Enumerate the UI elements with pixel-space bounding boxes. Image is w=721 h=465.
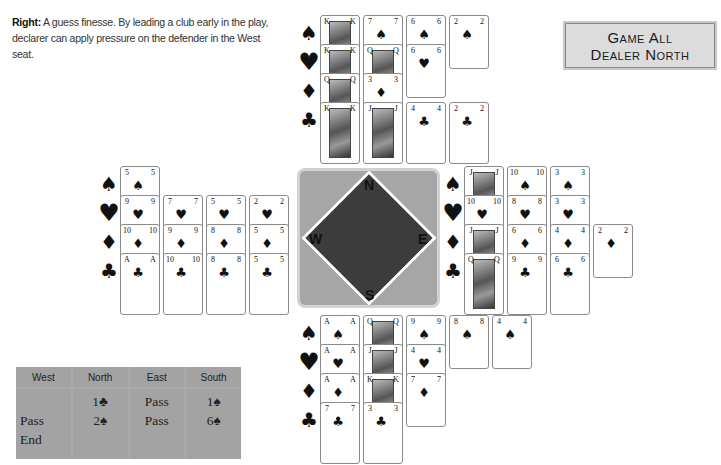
card-rank: Q: [467, 256, 475, 264]
card-rank: 6: [409, 18, 417, 26]
card-pip-icon: ♠: [121, 179, 159, 192]
card-rank: 4: [553, 227, 561, 235]
card-rank: 5: [278, 227, 286, 235]
diamond-suit-icon: ♦: [441, 232, 465, 252]
card-rank: 8: [209, 227, 217, 235]
playing-card: ♣55: [249, 253, 289, 315]
playing-card: ♠88: [449, 315, 489, 369]
card-rank: Q: [366, 47, 374, 55]
card-pip-icon: ♦: [508, 237, 546, 250]
card-pip-icon: ♠: [364, 28, 402, 41]
spade-suit-icon: ♠: [297, 323, 321, 343]
card-rank: K: [366, 376, 374, 384]
card-rank: 3: [366, 76, 374, 84]
card-rank: J: [467, 227, 475, 235]
card-rank: Q: [349, 76, 357, 84]
bid: [73, 430, 128, 449]
compass-south-label: S: [365, 287, 374, 303]
card-rank: 4: [521, 318, 529, 326]
bidding-column-south: 1♠ 6♠: [186, 389, 241, 459]
card-rank: 4: [579, 227, 587, 235]
card-rank: 3: [553, 198, 561, 206]
caption: Right: A guess finesse. By leading a clu…: [12, 14, 279, 62]
card-rank: Q: [323, 76, 331, 84]
card-rank: 7: [166, 198, 174, 206]
spade-suit-icon: ♠: [97, 174, 121, 194]
card-rank: 9: [409, 318, 417, 326]
card-rank: K: [349, 105, 357, 113]
bidding-header-south: South: [186, 367, 241, 387]
bid: 6♠: [186, 411, 241, 430]
card-rank: 10: [493, 198, 501, 206]
card-pip-icon: ♥: [164, 208, 202, 221]
card-rank: 6: [579, 256, 587, 264]
playing-card: ♠22: [449, 15, 489, 69]
card-rank: J: [392, 347, 400, 355]
card-rank: 4: [409, 105, 417, 113]
card-rank: 8: [235, 256, 243, 264]
bidding-column-north: 1♣ 2♠: [73, 389, 128, 459]
card-pip-icon: ♣: [121, 266, 159, 279]
card-rank: Q: [366, 318, 374, 326]
card-rank: K: [323, 47, 331, 55]
card-rank: A: [349, 318, 357, 326]
card-pip-icon: ♥: [551, 208, 589, 221]
card-pip-icon: ♣: [250, 266, 288, 279]
bidding-header-west: West: [16, 367, 71, 387]
bid: [186, 430, 241, 449]
compass-west-label: W: [309, 231, 322, 247]
card-rank: A: [323, 347, 331, 355]
card-rank: 7: [192, 198, 200, 206]
card-rank: 3: [579, 198, 587, 206]
card-rank: 7: [435, 376, 443, 384]
club-suit-icon: ♣: [97, 261, 121, 281]
playing-card: ♣1010: [163, 253, 203, 315]
playing-card: ♣77: [320, 402, 360, 464]
card-rank: A: [349, 376, 357, 384]
card-pip-icon: ♠: [551, 179, 589, 192]
card-rank: 8: [452, 318, 460, 326]
card-pip-icon: ♦: [594, 237, 632, 250]
card-rank: 8: [209, 256, 217, 264]
card-pip-icon: ♦: [121, 237, 159, 250]
card-rank: A: [323, 318, 331, 326]
card-rank: 2: [596, 227, 604, 235]
card-pip-icon: ♣: [364, 415, 402, 428]
bidding-column-east: Pass Pass: [130, 389, 185, 459]
playing-card: ♠44: [492, 315, 532, 369]
card-rank: A: [149, 256, 157, 264]
card-pip-icon: ♥: [465, 208, 503, 221]
card-pip-icon: ♣: [508, 266, 546, 279]
dealer-text: Dealer North: [591, 46, 690, 63]
card-rank: 2: [252, 198, 260, 206]
spade-suit-icon: ♠: [441, 174, 465, 194]
card-rank: Q: [493, 256, 501, 264]
card-rank: 4: [435, 105, 443, 113]
club-suit-icon: ♣: [441, 261, 465, 281]
card-rank: 9: [149, 198, 157, 206]
card-rank: J: [366, 347, 374, 355]
bidding-header-north: North: [73, 367, 128, 387]
card-pip-icon: ♦: [364, 86, 402, 99]
playing-card: ♣88: [206, 253, 246, 315]
card-rank: 6: [553, 256, 561, 264]
card-pip-icon: ♦: [407, 386, 445, 399]
bid: Pass: [130, 411, 185, 430]
heart-suit-icon: ♥: [297, 352, 321, 372]
playing-card: ♣AA: [120, 253, 160, 315]
card-rank: 5: [235, 198, 243, 206]
diamond-suit-icon: ♦: [297, 81, 321, 101]
card-rank: 9: [536, 256, 544, 264]
card-pip-icon: ♣: [551, 266, 589, 279]
card-rank: A: [123, 256, 131, 264]
card-rank: 4: [409, 347, 417, 355]
card-pip-icon: ♦: [321, 386, 359, 399]
card-rank: 7: [392, 18, 400, 26]
card-rank: 5: [209, 198, 217, 206]
diamond-suit-icon: ♦: [297, 381, 321, 401]
bid: 1♠: [186, 392, 241, 411]
bid: End: [16, 430, 71, 449]
diamond-suit-icon: ♦: [97, 232, 121, 252]
card-rank: K: [392, 376, 400, 384]
face-card-art: [329, 108, 351, 158]
